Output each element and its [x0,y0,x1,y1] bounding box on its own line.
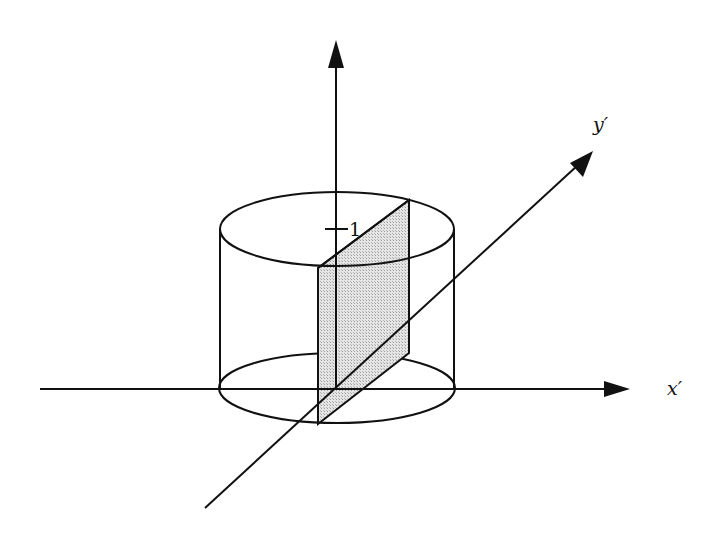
y-prime-arrowhead-icon [570,151,593,177]
tick-label: 1 [349,218,361,240]
vertical-arrowhead-icon [328,40,344,68]
x-prime-arrowhead-icon [604,381,630,397]
x-prime-label: x′ [667,377,683,399]
cylinder-diagram: 1 x′ y′ [0,0,715,534]
y-prime-label: y′ [592,113,609,135]
